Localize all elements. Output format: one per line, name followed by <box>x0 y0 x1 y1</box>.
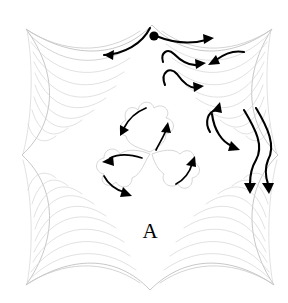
arrow-head-right <box>203 34 214 44</box>
block-outline-path <box>22 25 278 290</box>
quilting-diagram-figure: A <box>0 0 288 303</box>
arrow-head-down <box>262 183 274 194</box>
figure-label: A <box>142 219 158 243</box>
diagram-canvas: A <box>0 0 288 303</box>
cusped-square-block <box>22 25 278 290</box>
